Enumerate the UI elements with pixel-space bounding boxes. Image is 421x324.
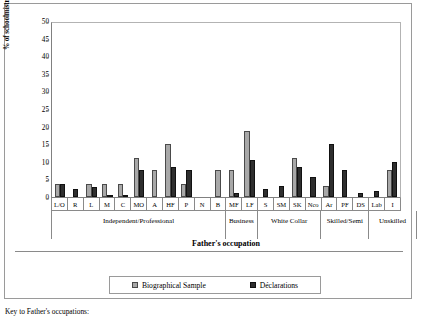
y-axis-tick-mark [46,40,49,41]
bar [152,170,157,197]
figure-caption: Key to Father's occupations: [5,307,89,316]
x-axis-tick-label: R [68,198,84,210]
divider-rule [15,251,403,252]
bar [73,189,78,197]
bar-group [305,23,321,197]
bar [342,170,347,197]
legend-item-biographical-sample: Biographical Sample [132,281,206,290]
x-axis-tick-labels: L/ORLMCMOAHFPNBMFLFSSMSKNcoArPFDSLabI [51,198,401,211]
x-axis-tick-label: PF [337,198,353,210]
x-axis-group-label: Skilled/Semi [321,211,369,239]
bar-group [273,23,289,197]
x-axis-tick-label: DS [353,198,369,210]
figure-frame: % of schoolmistresses 051015202530354045… [4,3,412,299]
bar [358,193,363,197]
bar-group [131,23,147,197]
bar-group [337,23,353,197]
bar [234,193,239,197]
bar [123,195,128,197]
chart-legend: Biographical Sample Déclarations [109,276,321,294]
bar [92,187,97,197]
x-axis-group-label: Business [226,211,258,239]
x-axis-tick-label: I [385,198,401,210]
legend-label: Biographical Sample [142,281,206,290]
legend-item-declarations: Déclarations [250,281,298,290]
x-axis-tick-label: MF [226,198,242,210]
bar [186,170,191,197]
bar-series-container [52,23,400,197]
legend-label: Déclarations [260,281,298,290]
x-axis-tick-label: Ar [322,198,338,210]
bar [263,189,268,197]
x-axis-tick-label: MO [131,198,147,210]
plot-area [51,22,401,198]
y-axis-tick-mark [46,22,49,23]
legend-swatch-icon [132,282,138,288]
bar [215,170,220,197]
y-axis-tick-mark [46,180,49,181]
y-axis-tick-mark [46,163,49,164]
bar-group [258,23,274,197]
bar-group [163,23,179,197]
x-axis-tick-label: P [179,198,195,210]
group-tick-icon [416,211,417,215]
x-axis-title: Father's occupation [51,239,401,248]
bar-group [194,23,210,197]
x-axis-tick-label: SK [290,198,306,210]
bar-group [289,23,305,197]
x-axis-tick-label: M [100,198,116,210]
bar [279,186,284,197]
x-axis-tick-label: LF [242,198,258,210]
bar-group [226,23,242,197]
y-axis-tick-mark [46,57,49,58]
y-axis-tick-mark [46,110,49,111]
bar-group [210,23,226,197]
x-axis-tick-label: Lab [369,198,385,210]
x-axis-tick-label: C [115,198,131,210]
x-axis-tick-label: L [84,198,100,210]
bar [107,195,112,197]
x-axis-group-label: White Collar [258,211,322,239]
x-axis-group-labels: Independent/ProfessionalBusinessWhite Co… [51,211,401,239]
x-axis-tick-label: S [258,198,274,210]
y-axis-tick-labels: 05101520253035404550 [23,22,49,198]
bar-group [68,23,84,197]
bar-group [99,23,115,197]
bar-group [179,23,195,197]
y-axis-tick-mark [46,198,49,199]
x-axis-group-label: Unskilled [369,211,417,239]
bar-group [384,23,400,197]
y-axis-tick-mark [46,128,49,129]
bar-group [368,23,384,197]
bar [60,184,65,197]
y-axis-title: % of schoolmistresses [3,0,11,50]
y-axis-tick-mark [46,92,49,93]
legend-swatch-icon [250,282,256,288]
bar-group [147,23,163,197]
x-axis-tick-label: B [211,198,227,210]
bar-group [52,23,68,197]
x-axis-tick-label: A [147,198,163,210]
x-axis-group-label: Independent/Professional [51,211,226,239]
bar-group [84,23,100,197]
bar-group [115,23,131,197]
x-axis-tick-label: HF [163,198,179,210]
x-axis-tick-label: L/O [51,198,68,210]
x-axis-tick-label: Nco [306,198,322,210]
bar-group [321,23,337,197]
bar [250,160,255,197]
bar [310,177,315,197]
bar-group [242,23,258,197]
bar [171,167,176,197]
bar [139,170,144,197]
x-axis-tick-label: N [195,198,211,210]
bar [329,144,334,197]
bar [374,191,379,197]
bar [297,167,302,197]
x-axis-tick-label: SM [274,198,290,210]
bar [392,162,397,197]
bar-group [352,23,368,197]
y-axis-tick-mark [46,145,49,146]
y-axis-tick-mark [46,75,49,76]
